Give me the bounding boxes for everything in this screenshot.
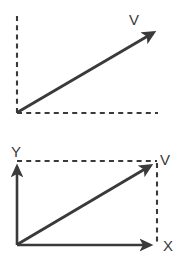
vector-diagram — [0, 0, 180, 266]
resolved-vector-panel — [17, 161, 157, 245]
top-vector-arrow — [18, 33, 153, 112]
x-axis-label: X — [163, 238, 173, 253]
bottom-vector-arrow — [18, 166, 150, 244]
bottom-vector-label: V — [160, 152, 170, 167]
y-axis-label: Y — [11, 144, 21, 159]
free-vector-panel — [17, 16, 158, 113]
figure-canvas: V Y V X — [0, 0, 180, 266]
top-vector-label: V — [129, 12, 139, 27]
